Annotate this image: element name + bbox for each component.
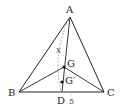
triangle-diagram: A B C D G G′ x 5 xyxy=(0,0,124,111)
label-5: 5 xyxy=(69,97,74,106)
label-g: G xyxy=(67,58,75,69)
point-g xyxy=(62,65,65,68)
label-x: x xyxy=(56,45,61,55)
label-a: A xyxy=(65,4,74,15)
label-d: D xyxy=(57,95,65,106)
label-b: B xyxy=(8,87,15,98)
label-c: C xyxy=(107,87,115,98)
segment-gb xyxy=(19,67,64,92)
label-gprime: G′ xyxy=(65,75,76,86)
point-gprime xyxy=(60,80,63,83)
